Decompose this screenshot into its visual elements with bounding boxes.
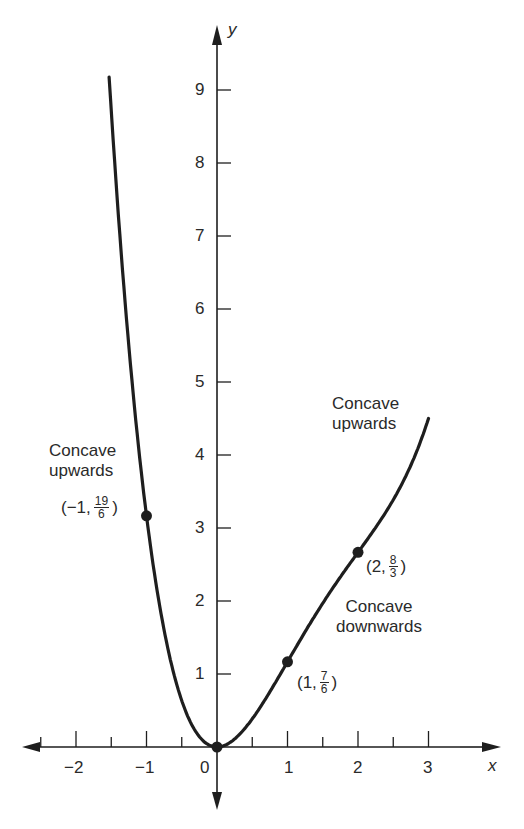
denominator: 3 xyxy=(390,567,397,579)
annotation-line: Concave xyxy=(49,441,116,461)
annotation-line: upwards xyxy=(332,414,399,434)
data-point-marker xyxy=(212,742,223,753)
point-label-neg1: (−1, 19 6 ) xyxy=(61,495,118,520)
annotation-line: Concave xyxy=(332,394,399,414)
data-point-marker xyxy=(353,547,364,558)
x-tick-label: 3 xyxy=(423,758,432,778)
annotation-line: downwards xyxy=(336,617,422,637)
x-tick-label: −1 xyxy=(135,758,154,778)
point-label-suffix: ) xyxy=(401,557,407,577)
x-axis-left-arrow-icon xyxy=(22,742,40,752)
y-tick-label: 1 xyxy=(195,664,204,684)
y-tick-label: 6 xyxy=(195,299,204,319)
point-label-prefix: (1, xyxy=(297,673,317,693)
y-tick-label: 2 xyxy=(195,591,204,611)
x-axis-right-arrow-icon xyxy=(482,742,501,752)
y-tick-label: 9 xyxy=(195,80,204,100)
data-point-marker xyxy=(141,510,152,521)
annotation-concave-downwards: Concave downwards xyxy=(336,597,422,637)
point-label-prefix: (2, xyxy=(366,557,386,577)
denominator: 6 xyxy=(321,683,328,695)
point-label-2: (2, 8 3 ) xyxy=(366,554,406,579)
point-label-1: (1, 7 6 ) xyxy=(297,670,337,695)
data-point-marker xyxy=(282,656,293,667)
y-axis-label: y xyxy=(228,20,237,40)
fraction: 8 3 xyxy=(389,554,398,579)
y-axis-up-arrow-icon xyxy=(212,25,222,45)
annotation-line: upwards xyxy=(49,461,116,481)
y-tick-label: 8 xyxy=(195,153,204,173)
x-tick-label: −2 xyxy=(64,758,83,778)
annotation-left-concave-upwards: Concave upwards xyxy=(49,441,116,481)
x-axis-label: x xyxy=(488,756,497,776)
annotation-right-concave-upwards: Concave upwards xyxy=(332,394,399,434)
fraction: 7 6 xyxy=(320,670,329,695)
y-tick-label: 4 xyxy=(195,445,204,465)
y-tick-label: 5 xyxy=(195,372,204,392)
annotation-line: Concave xyxy=(336,597,422,617)
fraction: 19 6 xyxy=(94,495,109,520)
x-tick-label: 1 xyxy=(284,758,293,778)
chart-canvas xyxy=(0,0,524,829)
point-label-suffix: ) xyxy=(332,673,338,693)
y-tick-label: 7 xyxy=(195,226,204,246)
point-label-prefix: (−1, xyxy=(61,498,91,518)
x-tick-label: 0 xyxy=(200,758,209,778)
point-label-suffix: ) xyxy=(112,498,118,518)
y-axis-down-arrow-icon xyxy=(212,792,222,810)
denominator: 6 xyxy=(98,508,105,520)
x-tick-label: 2 xyxy=(353,758,362,778)
y-tick-label: 3 xyxy=(195,518,204,538)
